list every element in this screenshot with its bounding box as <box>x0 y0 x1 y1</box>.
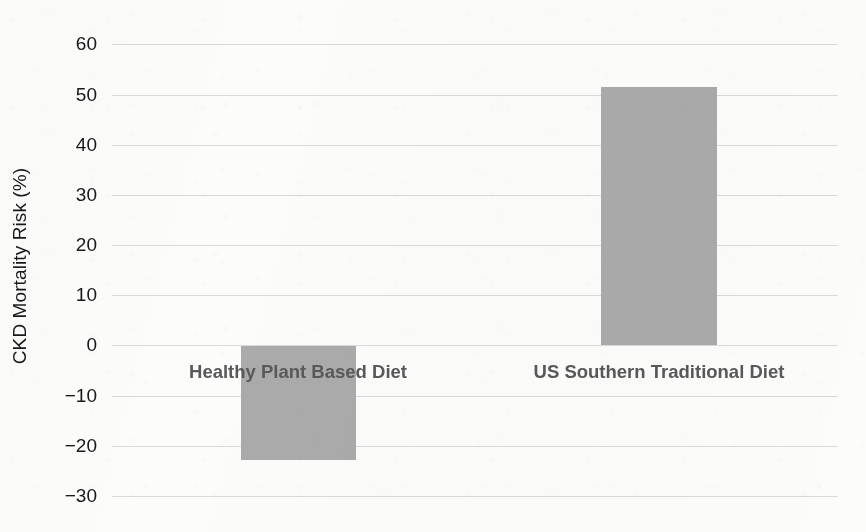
y-tick-label: 0 <box>7 334 97 356</box>
y-tick-label: 10 <box>7 284 97 306</box>
y-tick-label: 30 <box>7 184 97 206</box>
bar-chart: CKD Mortality Risk (%) 60 50 40 30 20 10… <box>0 0 866 532</box>
y-tick-label: −20 <box>7 435 97 457</box>
gridline <box>112 44 838 45</box>
gridline <box>112 496 838 497</box>
y-tick-label: 50 <box>7 84 97 106</box>
gridline <box>112 145 838 146</box>
plot-area: Healthy Plant Based Diet US Southern Tra… <box>112 0 838 532</box>
gridline <box>112 295 838 296</box>
x-category-label-healthy-plant-based-diet: Healthy Plant Based Diet <box>189 361 407 383</box>
x-category-label-us-southern-traditional-diet: US Southern Traditional Diet <box>534 361 785 383</box>
gridline <box>112 396 838 397</box>
gridline <box>112 95 838 96</box>
bar-us-southern-traditional-diet <box>601 87 717 345</box>
y-tick-label: −30 <box>7 485 97 507</box>
gridline-zero <box>112 345 838 346</box>
y-tick-label: 20 <box>7 234 97 256</box>
gridline <box>112 195 838 196</box>
y-tick-label: 60 <box>7 33 97 55</box>
y-tick-label: −10 <box>7 385 97 407</box>
gridline <box>112 245 838 246</box>
y-axis-tick-labels: 60 50 40 30 20 10 0 −10 −20 −30 <box>0 0 97 532</box>
gridline <box>112 446 838 447</box>
y-tick-label: 40 <box>7 134 97 156</box>
